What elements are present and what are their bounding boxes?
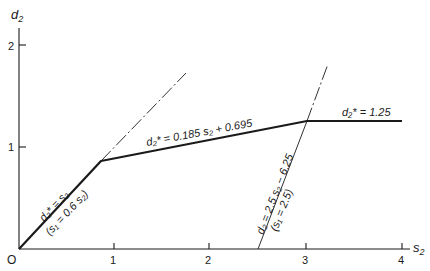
y-axis-label: d2 [11, 7, 23, 24]
line-steep-extension [307, 64, 328, 121]
x-axis-label: s2 [413, 240, 425, 257]
x-tick-label-2: 2 [205, 254, 211, 266]
y-tick-label-1: 1 [8, 141, 14, 153]
piecewise-linear-diagram: d2 s2 O 1 2 3 4 1 2 d₂* = s₂ (s₁ = 0.6 s… [0, 0, 430, 271]
x-tick-label-1: 1 [110, 254, 116, 266]
y-tick-label-2: 2 [8, 40, 14, 52]
construction-lines [101, 64, 328, 161]
annotation-seg2-eq: d₂* = 0.185 s₂ + 0.695 [145, 116, 254, 148]
optimal-d2-path [19, 121, 402, 249]
x-tick-label-4: 4 [398, 254, 404, 266]
annotation-seg3-eq: d₂* = 1.25 [342, 106, 391, 118]
x-tick-label-3: 3 [302, 254, 308, 266]
origin-label: O [7, 253, 16, 267]
